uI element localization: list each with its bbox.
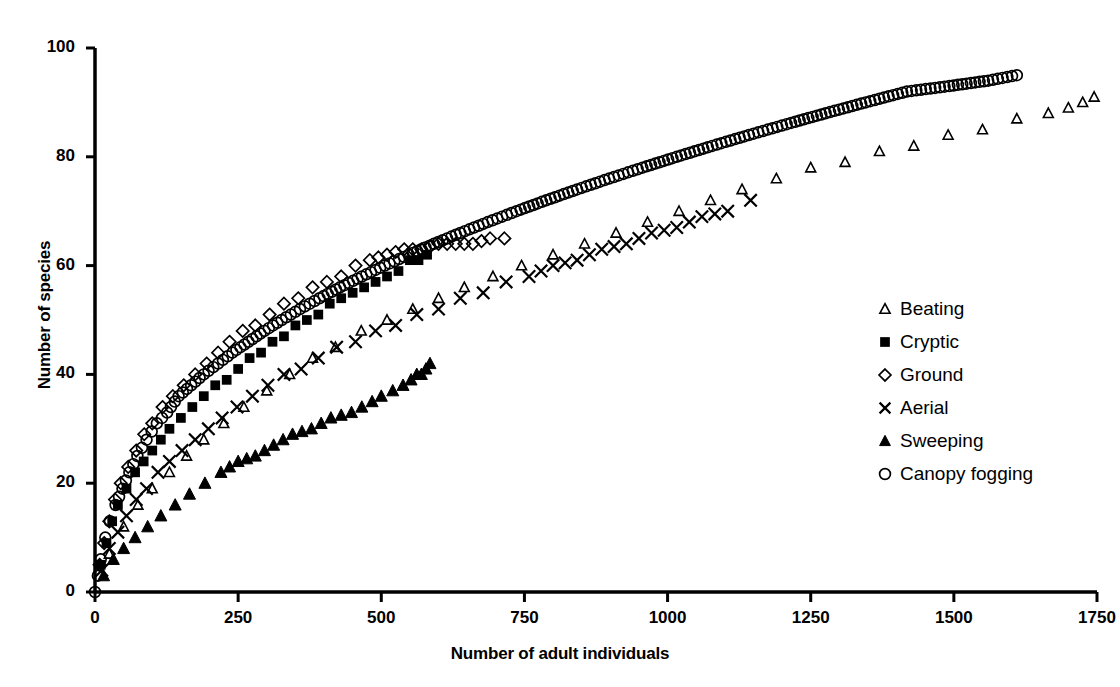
data-point-open-triangle: [643, 217, 653, 226]
legend-item-canopy-fogging[interactable]: Canopy fogging: [872, 457, 1102, 490]
data-point-cross: [349, 336, 361, 348]
y-tick-label: 40: [19, 363, 75, 383]
data-point-filled-triangle: [375, 390, 387, 401]
data-point-open-triangle: [164, 467, 174, 476]
x-tick-label: 500: [341, 608, 421, 628]
series-sweeping: [98, 357, 436, 581]
data-point-cross: [202, 423, 214, 435]
data-point-cross: [696, 210, 708, 222]
data-point-cross: [523, 270, 535, 282]
data-point-filled-triangle: [325, 412, 337, 423]
data-point-filled-square: [348, 288, 358, 298]
data-point-cross: [432, 303, 444, 315]
data-point-open-triangle: [434, 293, 444, 302]
data-point-open-triangle: [356, 326, 366, 335]
data-point-open-triangle: [978, 124, 988, 133]
data-point-cross: [709, 208, 721, 220]
y-tick-label: 20: [19, 472, 75, 492]
data-point-open-triangle: [880, 303, 890, 313]
scan-artifact-strip: [0, 672, 1120, 686]
legend-item-label: Beating: [898, 298, 964, 320]
data-point-cross: [262, 379, 274, 391]
data-point-cross: [620, 238, 632, 250]
data-point-filled-square: [147, 446, 157, 456]
data-point-filled-square: [256, 348, 266, 358]
legend-item-label: Sweeping: [898, 430, 983, 452]
data-point-filled-triangle: [155, 510, 167, 521]
data-point-open-diamond: [498, 232, 510, 244]
data-point-open-triangle: [840, 157, 850, 166]
legend-item-sweeping[interactable]: Sweeping: [872, 424, 1102, 457]
data-point-filled-square: [156, 435, 166, 445]
data-point-filled-square: [222, 375, 232, 385]
x-tick-label: 1250: [771, 608, 851, 628]
open-triangle-icon: [872, 298, 898, 320]
data-point-cross: [112, 526, 124, 538]
data-point-open-diamond: [200, 357, 212, 369]
data-point-cross: [477, 287, 489, 299]
legend-item-beating[interactable]: Beating: [872, 292, 1102, 325]
cross-icon: [872, 397, 898, 419]
data-point-open-triangle: [674, 206, 684, 215]
x-tick-label: 750: [484, 608, 564, 628]
data-point-filled-triangle: [142, 520, 154, 531]
legend-item-cryptic[interactable]: Cryptic: [872, 325, 1102, 358]
species-accumulation-figure: Number of species Number of adult indivi…: [0, 0, 1120, 687]
data-point-open-triangle: [909, 141, 919, 150]
data-point-open-triangle: [1043, 108, 1053, 117]
data-point-cross: [721, 205, 733, 217]
data-point-cross: [389, 319, 401, 331]
legend-item-ground[interactable]: Ground: [872, 358, 1102, 391]
legend-item-label: Aerial: [898, 397, 949, 419]
data-point-cross: [596, 243, 608, 255]
data-point-open-diamond: [458, 238, 470, 250]
data-point-cross: [608, 240, 620, 252]
y-tick-label: 0: [19, 581, 75, 601]
data-point-cross: [559, 257, 571, 269]
legend-item-label: Ground: [898, 364, 963, 386]
open-diamond-icon: [872, 364, 898, 386]
data-point-open-triangle: [771, 173, 781, 182]
data-point-filled-triangle: [183, 488, 195, 499]
data-point-filled-square: [210, 380, 220, 390]
data-point-open-triangle: [1012, 114, 1022, 123]
data-point-filled-triangle: [335, 409, 347, 420]
data-point-open-triangle: [806, 162, 816, 171]
data-point-open-diamond: [349, 259, 361, 271]
x-tick-label: 0: [55, 608, 135, 628]
data-point-cross: [744, 194, 756, 206]
data-point-open-diamond: [278, 298, 290, 310]
data-point-open-diamond: [292, 292, 304, 304]
y-tick-label: 100: [19, 37, 75, 57]
data-point-filled-triangle: [118, 542, 130, 553]
data-point-filled-square: [245, 353, 255, 363]
data-point-open-triangle: [459, 282, 469, 291]
series-cryptic: [96, 250, 432, 570]
data-point-filled-square: [176, 413, 186, 423]
data-point-filled-square: [313, 310, 323, 320]
data-point-filled-square: [394, 266, 404, 276]
x-axis-title: Number of adult individuals: [0, 644, 1120, 664]
x-tick-label: 250: [198, 608, 278, 628]
filled-square-icon: [872, 331, 898, 353]
filled-triangle-icon: [872, 430, 898, 452]
data-point-open-triangle: [548, 250, 558, 259]
y-tick-label: 80: [19, 146, 75, 166]
data-point-cross: [454, 292, 466, 304]
y-axis-title: Number of species: [35, 185, 55, 445]
data-point-cross: [683, 216, 695, 228]
data-point-open-triangle: [580, 239, 590, 248]
data-point-cross: [535, 265, 547, 277]
x-tick-label: 1000: [628, 608, 708, 628]
data-point-open-triangle: [1078, 97, 1088, 106]
data-point-filled-square: [233, 364, 243, 374]
data-point-cross: [369, 325, 381, 337]
data-point-open-triangle: [874, 146, 884, 155]
legend-item-label: Canopy fogging: [898, 463, 1033, 485]
data-point-open-triangle: [488, 271, 498, 280]
legend-item-aerial[interactable]: Aerial: [872, 391, 1102, 424]
data-point-filled-square: [187, 402, 197, 412]
data-point-filled-square: [279, 331, 289, 341]
data-point-open-triangle: [611, 228, 621, 237]
data-point-filled-square: [199, 391, 209, 401]
